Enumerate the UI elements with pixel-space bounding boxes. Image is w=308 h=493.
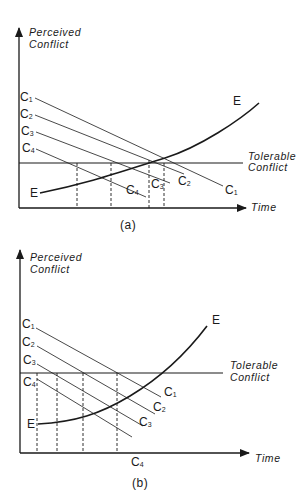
c2-start-label-b: C2 xyxy=(22,335,35,349)
y-axis-label-a-line2: Conflict xyxy=(29,38,69,50)
tolerable-label-b-line1: Tolerable xyxy=(230,359,278,371)
y-axis-label-a-line1: Perceived xyxy=(29,26,82,38)
e-end-label-a: E xyxy=(233,94,241,108)
c4-start-label-b: C4 xyxy=(23,375,36,389)
y-axis-label-b-line1: Perceived xyxy=(30,251,83,263)
x-axis-label-a: Time xyxy=(251,201,277,213)
c1-start-label-b: C1 xyxy=(22,317,35,331)
y-axis-label-b-line2: Conflict xyxy=(30,263,70,275)
tolerable-label-b-line2: Conflict xyxy=(230,371,270,383)
c4-end-label-b: C4 xyxy=(131,455,144,469)
c3-start-label-a: C3 xyxy=(21,124,34,138)
c4-start-label-a: C4 xyxy=(22,141,35,155)
c3-start-label-b: C3 xyxy=(23,353,36,367)
c3-end-label-b: C3 xyxy=(139,415,152,429)
line-c1-b xyxy=(36,328,161,397)
curve-e-b xyxy=(38,326,207,424)
panel-b xyxy=(20,250,249,453)
c2-start-label-a: C2 xyxy=(20,107,33,121)
c1-end-label-b: C1 xyxy=(164,385,177,399)
caption-a: (a) xyxy=(120,218,136,232)
curve-e-a xyxy=(40,103,259,193)
c3-end-label-a: C3 xyxy=(151,177,164,191)
e-end-label-b: E xyxy=(212,313,220,327)
c2-end-label-b: C2 xyxy=(153,400,166,414)
panel-a xyxy=(19,28,259,208)
e-start-label-a: E xyxy=(30,186,38,200)
c4-end-label-a: C4 xyxy=(126,183,139,197)
c1-end-label-a: C1 xyxy=(225,183,238,197)
c2-end-label-a: C2 xyxy=(178,174,191,188)
caption-b: (b) xyxy=(132,476,148,490)
line-c2-b xyxy=(37,346,155,414)
e-start-label-b: E xyxy=(27,417,35,431)
c1-start-label-a: C1 xyxy=(20,90,33,104)
line-c2-a xyxy=(35,115,184,174)
x-axis-label-b: Time xyxy=(255,452,281,464)
conflict-diagram: Perceived Conflict C1 C2 C3 C4 E E C4 C3… xyxy=(0,0,308,493)
line-c4-b xyxy=(37,379,132,437)
tolerable-label-a-line2: Conflict xyxy=(248,161,288,173)
